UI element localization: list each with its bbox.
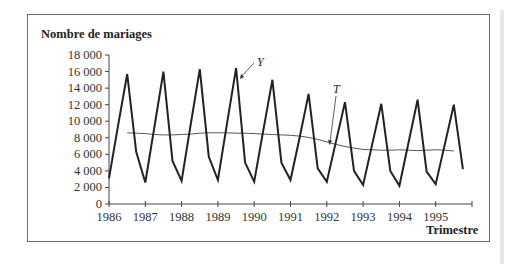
series-Y-line [109, 68, 463, 186]
x-tick-label: 1991 [278, 210, 303, 224]
x-tick-label: 1988 [169, 210, 194, 224]
plot-area: 02 0004 0006 0008 00010 00012 00014 0001… [0, 0, 512, 264]
y-tick-label: 6 000 [74, 147, 102, 161]
x-tick-label: 1987 [133, 210, 158, 224]
y-tick-label: 4 000 [74, 164, 102, 178]
y-tick-label: 8 000 [74, 131, 102, 145]
series-label-Y: Y [257, 55, 265, 69]
x-tick-label: 1990 [242, 210, 267, 224]
annotation-Y: Y [240, 55, 265, 79]
series-label-T: T [333, 82, 341, 96]
y-tick-label: 12 000 [68, 98, 102, 112]
x-tick-label: 1994 [387, 210, 413, 224]
series-T-line [127, 133, 454, 151]
annotation-T: T [328, 82, 341, 145]
x-tick-label: 1989 [205, 210, 230, 224]
y-tick-label: 14 000 [68, 81, 102, 95]
y-axis-ticks: 02 0004 0006 0008 00010 00012 00014 0001… [68, 48, 109, 211]
y-tick-label: 2 000 [74, 180, 102, 194]
y-tick-label: 0 [96, 197, 102, 211]
x-tick-label: 1986 [97, 210, 122, 224]
x-tick-label: 1995 [423, 210, 448, 224]
y-tick-label: 18 000 [68, 48, 102, 62]
y-tick-label: 16 000 [68, 65, 102, 79]
x-tick-label: 1993 [351, 210, 376, 224]
y-tick-label: 10 000 [68, 114, 102, 128]
x-tick-label: 1992 [314, 210, 339, 224]
